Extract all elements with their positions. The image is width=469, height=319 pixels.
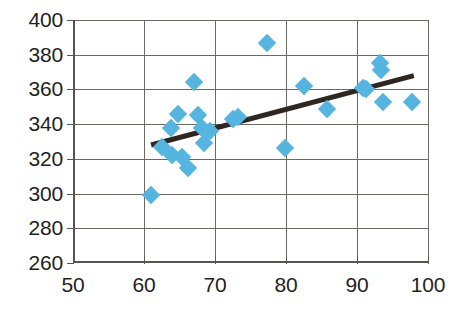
y-axis-tick-label: 400 <box>29 9 63 30</box>
y-axis-tick-label: 300 <box>29 183 63 204</box>
y-axis-tick-label: 380 <box>29 44 63 65</box>
y-axis-tick-labels: 260280300320340360380400 <box>0 20 63 263</box>
x-axis-tick <box>428 257 429 264</box>
y-axis-tick-label: 360 <box>29 78 63 99</box>
gridline-vertical <box>428 20 429 263</box>
x-axis-tick-label: 80 <box>275 274 298 295</box>
x-axis-tick-label: 60 <box>133 274 156 295</box>
x-axis-tick-label: 90 <box>346 274 369 295</box>
x-axis-tick-label: 50 <box>62 274 85 295</box>
trend-line <box>73 20 428 263</box>
y-axis-tick-label: 280 <box>29 217 63 238</box>
x-axis-tick-labels: 5060708090100 <box>73 274 428 302</box>
y-axis-tick-label: 320 <box>29 148 63 169</box>
y-axis-tick-label: 340 <box>29 113 63 134</box>
x-axis-tick-label: 100 <box>411 274 445 295</box>
x-axis-tick-label: 70 <box>204 274 227 295</box>
y-axis-tick-label: 260 <box>29 252 63 273</box>
plot-area <box>73 20 428 263</box>
scatter-chart-figure: 260280300320340360380400 5060708090100 <box>0 0 469 319</box>
